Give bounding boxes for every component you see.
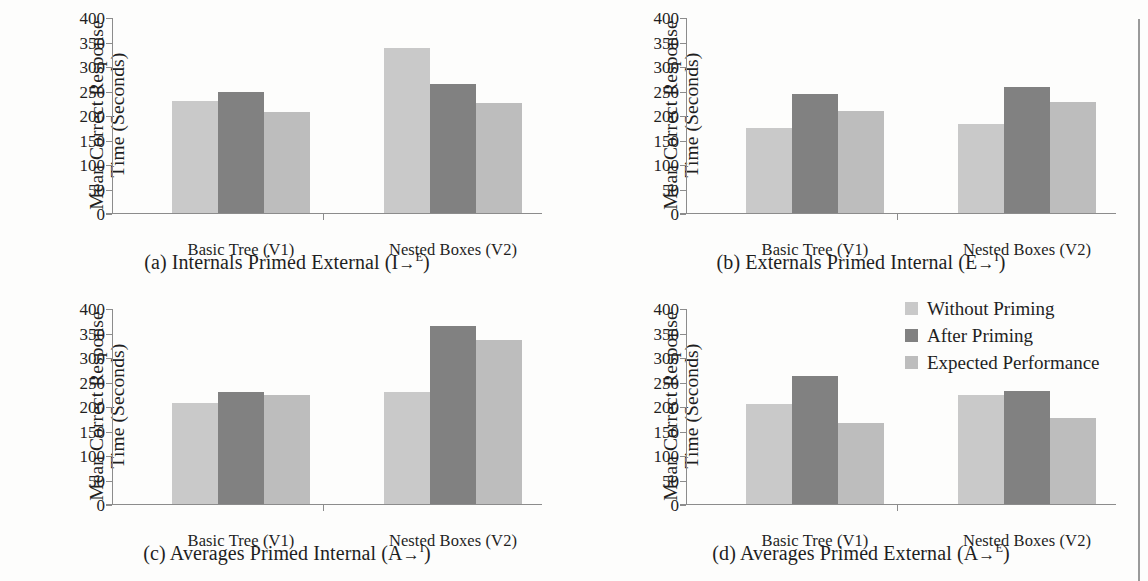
y-axis-tick (680, 214, 686, 215)
bar (1004, 87, 1050, 213)
y-axis-tick-label: 150 (654, 423, 680, 440)
y-axis-tick (680, 141, 686, 142)
y-axis-tick (106, 334, 112, 335)
plot-area: 050100150200250300350400Basic Tree (V1)N… (112, 309, 542, 505)
y-axis-tick-label: 350 (654, 34, 680, 51)
y-axis-tick-label: 300 (80, 59, 106, 76)
caption-superscript: E (995, 541, 1003, 555)
bar-group (746, 18, 884, 213)
x-axis-line (106, 213, 542, 214)
caption-prefix: (c) Averages Primed Internal (A (143, 542, 402, 564)
y-axis-tick (106, 190, 112, 191)
y-axis-tick (680, 358, 686, 359)
bar (1050, 102, 1096, 213)
caption-arrow: → (977, 254, 994, 273)
caption-superscript: E (415, 250, 423, 264)
y-axis-tick-label: 400 (80, 301, 106, 318)
y-axis-tick-label: 100 (80, 448, 106, 465)
bar-group (384, 18, 522, 213)
y-axis-tick-label: 100 (80, 157, 106, 174)
y-axis-tick-label: 300 (654, 59, 680, 76)
legend-label: After Priming (927, 326, 1033, 345)
bar (1050, 418, 1096, 504)
x-axis-category-tick (897, 505, 898, 511)
y-axis-tick-label: 100 (654, 157, 680, 174)
y-axis-tick-label: 0 (671, 206, 680, 223)
y-axis-tick (106, 407, 112, 408)
bar-group (172, 18, 310, 213)
y-axis-tick-label: 400 (654, 10, 680, 27)
caption-arrow: → (403, 545, 420, 564)
y-axis-line (112, 309, 113, 505)
y-axis-tick (680, 481, 686, 482)
legend-item: After Priming (905, 322, 1140, 349)
caption-arrow: → (398, 254, 415, 273)
chart-panel-b: Mean Correct Response Time (Seconds) 050… (574, 0, 1148, 290)
chart-legend: Without PrimingAfter PrimingExpected Per… (905, 295, 1140, 376)
legend-label: Without Priming (927, 299, 1055, 318)
y-axis-tick (106, 92, 112, 93)
chart-panel-c: Mean Correct Response Time (Seconds) 050… (0, 291, 574, 581)
plot-area: 050100150200250300350400Basic Tree (V1)N… (686, 18, 1116, 214)
legend-swatch-icon (905, 302, 918, 315)
y-axis-tick (106, 18, 112, 19)
bar (218, 392, 264, 504)
x-axis-line (680, 504, 1116, 505)
chart-panel-a: Mean Correct Response Time (Seconds) 050… (0, 0, 574, 290)
y-axis-tick-label: 250 (654, 83, 680, 100)
y-axis-tick (106, 67, 112, 68)
bar-group (746, 309, 884, 504)
x-axis-category-tick (897, 214, 898, 220)
bar (792, 376, 838, 504)
caption-prefix: (b) Externals Primed Internal (E (717, 251, 978, 273)
y-axis-tick (680, 165, 686, 166)
legend-swatch-icon (905, 356, 918, 369)
x-axis-category-tick (323, 214, 324, 220)
y-axis-tick-label: 100 (654, 448, 680, 465)
bar (838, 111, 884, 213)
y-axis-tick-label: 200 (80, 399, 106, 416)
y-axis-tick-label: 300 (654, 350, 680, 367)
y-axis-tick-label: 350 (80, 34, 106, 51)
y-axis-tick (106, 309, 112, 310)
y-axis-tick (106, 505, 112, 506)
y-axis-tick (106, 432, 112, 433)
bar (838, 423, 884, 504)
bar (430, 326, 476, 504)
y-axis-tick-label: 200 (80, 108, 106, 125)
figure-page: Mean Correct Response Time (Seconds) 050… (0, 0, 1148, 581)
y-axis-tick (106, 214, 112, 215)
bar (172, 101, 218, 213)
x-axis-line (106, 504, 542, 505)
panel-caption: (a) Internals Primed External (I→E) (0, 250, 574, 274)
y-axis-tick (106, 116, 112, 117)
bar (384, 392, 430, 504)
y-axis-tick-label: 50 (88, 181, 105, 198)
y-axis-tick-label: 0 (97, 206, 106, 223)
bar (1004, 391, 1050, 504)
y-axis-tick (680, 309, 686, 310)
bar (172, 403, 218, 504)
x-axis-category-tick (323, 505, 324, 511)
y-axis-tick-label: 150 (80, 132, 106, 149)
bar (746, 404, 792, 504)
y-axis-tick (680, 190, 686, 191)
caption-prefix: (a) Internals Primed External (I (144, 251, 398, 273)
y-axis-tick (680, 67, 686, 68)
y-axis-tick (680, 18, 686, 19)
y-axis-tick (106, 141, 112, 142)
bar (476, 340, 522, 504)
y-axis-tick-label: 250 (654, 374, 680, 391)
y-axis-tick-label: 0 (671, 497, 680, 514)
y-axis-tick (680, 432, 686, 433)
y-axis-tick (106, 165, 112, 166)
y-axis-tick (680, 334, 686, 335)
legend-item: Expected Performance (905, 349, 1140, 376)
y-axis-tick (680, 505, 686, 506)
y-axis-tick-label: 250 (80, 374, 106, 391)
caption-prefix: (d) Averages Primed External (A (712, 542, 978, 564)
bar (264, 112, 310, 213)
caption-suffix: ) (424, 542, 431, 564)
y-axis-tick-label: 350 (654, 325, 680, 342)
bar (958, 395, 1004, 504)
